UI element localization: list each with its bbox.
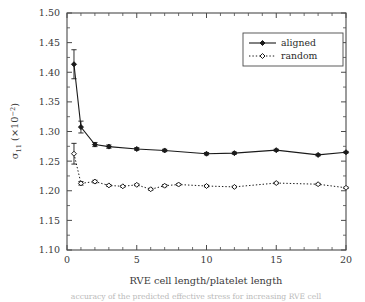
legend-label-aligned: aligned (281, 37, 316, 48)
data-point-aligned (232, 151, 237, 156)
chart-legend: alignedrandom (243, 33, 343, 66)
y-tick-label: 1.45 (39, 37, 60, 48)
x-tick-label: 5 (134, 254, 140, 265)
data-point-aligned (162, 148, 167, 153)
data-point-random (106, 183, 111, 188)
figure-container: 1.101.151.201.251.301.351.401.451.500510… (0, 0, 365, 302)
data-point-random (176, 182, 181, 187)
data-point-aligned (71, 62, 76, 67)
x-tick-label: 20 (340, 254, 352, 265)
series-random (71, 143, 348, 191)
y-tick-label: 1.10 (39, 244, 60, 255)
data-point-random (232, 184, 237, 189)
y-tick-label: 1.25 (39, 156, 60, 167)
data-point-random (162, 183, 167, 188)
data-point-random (71, 151, 76, 156)
series-line-random (74, 154, 346, 190)
data-point-aligned (274, 148, 279, 153)
data-point-aligned (344, 150, 349, 155)
x-tick-label: 0 (64, 254, 70, 265)
x-tick-label: 10 (200, 254, 212, 265)
y-tick-label: 1.50 (39, 7, 60, 18)
data-point-random (204, 184, 209, 189)
data-point-random (120, 184, 125, 189)
y-tick-label: 1.35 (39, 96, 60, 107)
y-tick-label: 1.20 (39, 185, 60, 196)
y-tick-label: 1.30 (39, 126, 60, 137)
data-point-random (134, 182, 139, 187)
data-series (71, 50, 348, 192)
data-point-aligned (204, 151, 209, 156)
y-tick-label: 1.15 (39, 215, 60, 226)
data-point-random (148, 187, 153, 192)
series-line-aligned (74, 64, 346, 155)
chart-canvas: 1.101.151.201.251.301.351.401.451.500510… (0, 0, 365, 302)
data-point-random (316, 182, 321, 187)
data-point-random (344, 185, 349, 190)
data-point-random (274, 181, 279, 186)
legend-label-random: random (281, 50, 318, 61)
y-tick-label: 1.40 (39, 67, 60, 78)
data-point-aligned (316, 152, 321, 157)
x-tick-label: 15 (270, 254, 282, 265)
